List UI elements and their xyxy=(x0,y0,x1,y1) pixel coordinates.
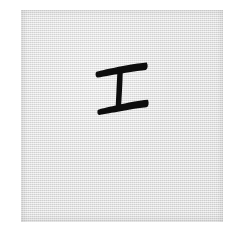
paper-swatch xyxy=(21,10,223,222)
image-canvas xyxy=(0,0,242,235)
